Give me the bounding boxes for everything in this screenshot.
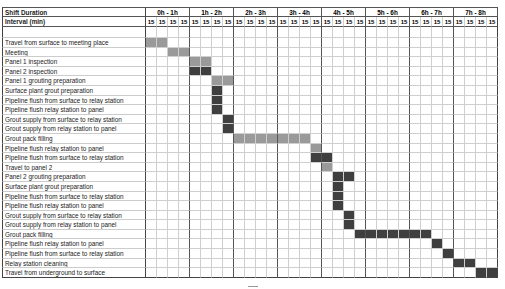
grid-cell <box>366 220 377 230</box>
grid-cell <box>201 38 212 48</box>
grid-cell <box>179 38 190 48</box>
grid-cell <box>311 239 322 249</box>
task-bar-segment <box>212 96 223 106</box>
grid-cell <box>234 86 245 96</box>
grid-cell <box>212 48 223 58</box>
grid-cell <box>256 67 267 77</box>
grid-cell <box>322 211 333 221</box>
grid-cell <box>377 201 388 211</box>
grid-cell <box>388 259 399 269</box>
grid-cell <box>223 220 234 230</box>
task-cells <box>146 220 498 230</box>
grid-cell <box>432 134 443 144</box>
grid-cell <box>267 86 278 96</box>
grid-cell <box>311 163 322 173</box>
task-bar-segment <box>465 259 476 269</box>
grid-cell <box>146 144 157 154</box>
grid-cell <box>256 192 267 202</box>
grid-cell <box>454 239 465 249</box>
grid-cell <box>311 27 322 38</box>
grid-cell <box>421 239 432 249</box>
grid-cell <box>179 124 190 134</box>
grid-cell <box>267 192 278 202</box>
grid-cell <box>487 153 498 163</box>
grid-cell <box>454 48 465 58</box>
grid-cell <box>366 134 377 144</box>
task-cells <box>146 268 498 278</box>
grid-cell <box>190 182 201 192</box>
grid-cell <box>410 192 421 202</box>
grid-cell <box>388 48 399 58</box>
grid-cell <box>454 172 465 182</box>
grid-cell <box>157 124 168 134</box>
interval-header: 15 <box>201 17 212 27</box>
grid-cell <box>476 38 487 48</box>
grid-cell <box>344 27 355 38</box>
task-bar-segment <box>432 239 443 249</box>
grid-cell <box>223 230 234 240</box>
grid-cell <box>201 172 212 182</box>
grid-cell <box>333 48 344 58</box>
task-cells <box>146 57 498 67</box>
grid-cell <box>289 220 300 230</box>
grid-cell <box>157 259 168 269</box>
grid-cell <box>289 67 300 77</box>
grid-cell <box>190 163 201 173</box>
grid-cell <box>344 115 355 125</box>
grid-cell <box>421 182 432 192</box>
grid-cell <box>168 144 179 154</box>
grid-cell <box>146 230 157 240</box>
grid-cell <box>366 76 377 86</box>
grid-cell <box>234 239 245 249</box>
task-row: Panel 1 inspection <box>2 57 498 67</box>
grid-cell <box>476 86 487 96</box>
grid-cell <box>399 96 410 106</box>
grid-cell <box>212 57 223 67</box>
grid-cell <box>454 86 465 96</box>
grid-cell <box>157 211 168 221</box>
grid-cell <box>234 76 245 86</box>
task-row: Travel to panel 2 <box>2 163 498 173</box>
interval-header: 15 <box>476 17 487 27</box>
grid-cell <box>322 67 333 77</box>
grid-cell <box>399 124 410 134</box>
interval-header: 15 <box>399 17 410 27</box>
grid-cell <box>267 96 278 106</box>
grid-cell <box>267 230 278 240</box>
grid-cell <box>190 124 201 134</box>
grid-cell <box>190 230 201 240</box>
grid-cell <box>278 38 289 48</box>
grid-cell <box>201 76 212 86</box>
grid-cell <box>179 115 190 125</box>
grid-cell <box>201 27 212 38</box>
grid-cell <box>476 259 487 269</box>
grid-cell <box>432 86 443 96</box>
grid-cell <box>234 163 245 173</box>
grid-cell <box>157 192 168 202</box>
grid-cell <box>311 259 322 269</box>
grid-cell <box>399 239 410 249</box>
grid-cell <box>344 230 355 240</box>
grid-cell <box>333 268 344 278</box>
grid-cell <box>168 105 179 115</box>
grid-cell <box>399 38 410 48</box>
grid-cell <box>454 268 465 278</box>
task-bar-segment <box>223 115 234 125</box>
grid-cell <box>267 153 278 163</box>
grid-cell <box>432 230 443 240</box>
grid-cell <box>377 76 388 86</box>
grid-cell <box>234 67 245 77</box>
grid-cell <box>245 124 256 134</box>
grid-cell <box>355 220 366 230</box>
grid-cell <box>190 249 201 259</box>
grid-cell <box>311 192 322 202</box>
grid-cell <box>344 144 355 154</box>
grid-cell <box>377 86 388 96</box>
task-row: Relay station cleaning <box>2 259 498 269</box>
grid-cell <box>421 220 432 230</box>
grid-cell <box>487 115 498 125</box>
grid-cell <box>212 182 223 192</box>
grid-cell <box>476 96 487 106</box>
task-bar-segment <box>157 38 168 48</box>
grid-cell <box>267 249 278 259</box>
